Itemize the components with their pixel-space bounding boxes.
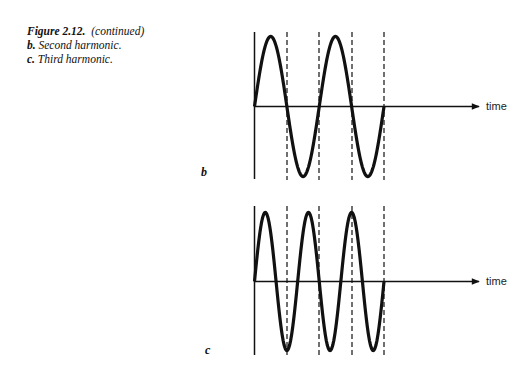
harmonics-figure: time time — [0, 0, 531, 370]
time-axis-label: time — [486, 100, 507, 112]
chart-b: time — [254, 32, 507, 180]
time-axis-label: time — [486, 275, 507, 287]
chart-c: time — [254, 206, 507, 356]
